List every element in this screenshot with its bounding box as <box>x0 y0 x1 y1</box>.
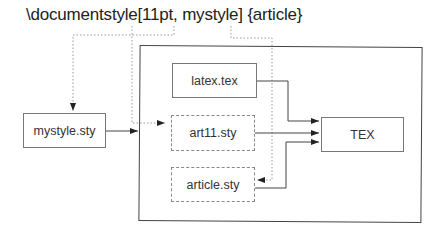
node-article-sty: article.sty <box>171 167 255 202</box>
node-art11-sty: art11.sty <box>171 115 255 151</box>
node-tex: TEX <box>321 117 404 152</box>
node-label: art11.sty <box>189 126 236 140</box>
edge-article-to-tex <box>254 142 319 188</box>
dotted-edge-11pt <box>132 26 165 123</box>
node-latex-tex: latex.tex <box>172 63 257 98</box>
dotted-edge-mystyle <box>73 26 174 111</box>
node-mystyle-sty: mystyle.sty <box>23 113 106 148</box>
node-label: mystyle.sty <box>34 124 96 138</box>
dotted-edge-article <box>231 26 272 180</box>
edge-latex-to-tex <box>256 81 319 121</box>
node-label: article.sty <box>187 178 240 192</box>
node-label: TEX <box>350 128 374 142</box>
node-label: latex.tex <box>191 74 238 88</box>
